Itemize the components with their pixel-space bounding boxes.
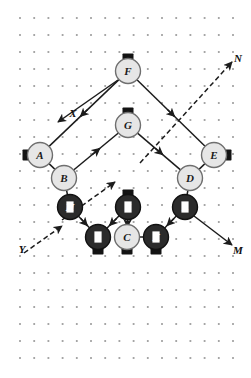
grid-dot bbox=[133, 17, 135, 19]
grid-dot bbox=[147, 119, 149, 121]
grid-dot bbox=[232, 238, 234, 240]
node-E[interactable]: E bbox=[202, 143, 232, 168]
grid-dot bbox=[232, 85, 234, 87]
grid-dot bbox=[232, 136, 234, 138]
grid-dot bbox=[33, 170, 35, 172]
grid-dot bbox=[48, 204, 50, 206]
node-D[interactable]: D bbox=[178, 166, 203, 191]
node-label-D: D bbox=[185, 172, 194, 184]
grid-dot bbox=[190, 221, 192, 223]
grid-dot bbox=[204, 17, 206, 19]
grid-dot bbox=[76, 85, 78, 87]
grid-dot bbox=[232, 289, 234, 291]
grid-dot bbox=[133, 289, 135, 291]
grid-dot bbox=[62, 289, 64, 291]
grid-dot bbox=[218, 357, 220, 359]
grid-dot bbox=[204, 204, 206, 206]
node-F[interactable]: F bbox=[116, 54, 141, 84]
grid-dot bbox=[104, 102, 106, 104]
grid-dot bbox=[119, 170, 121, 172]
node-L[interactable]: L bbox=[173, 195, 198, 220]
grid-dot bbox=[19, 51, 21, 53]
grid-dot bbox=[218, 136, 220, 138]
grid-dot bbox=[147, 323, 149, 325]
node-A[interactable]: A bbox=[23, 143, 53, 168]
node-B[interactable]: B bbox=[52, 166, 77, 191]
node-J[interactable]: J bbox=[116, 190, 141, 220]
grid-dot bbox=[119, 357, 121, 359]
grid-dot bbox=[19, 221, 21, 223]
grid-dot bbox=[19, 34, 21, 36]
grid-dot bbox=[119, 272, 121, 274]
grid-dot bbox=[76, 306, 78, 308]
grid-dot bbox=[175, 340, 177, 342]
grid-dot bbox=[147, 255, 149, 257]
grid-dot bbox=[175, 68, 177, 70]
grid-dot bbox=[204, 102, 206, 104]
grid-dot bbox=[33, 187, 35, 189]
grid-dot bbox=[76, 51, 78, 53]
grid-dot bbox=[133, 221, 135, 223]
grid-dot bbox=[33, 51, 35, 53]
grid-dot bbox=[62, 255, 64, 257]
grid-dot bbox=[119, 85, 121, 87]
grid-dot bbox=[90, 221, 92, 223]
grid-dot bbox=[48, 51, 50, 53]
grid-dot bbox=[161, 255, 163, 257]
edge-arrowhead bbox=[155, 148, 163, 155]
grid-dot bbox=[33, 340, 35, 342]
node-C[interactable]: C bbox=[115, 225, 140, 255]
grid-dot bbox=[19, 119, 21, 121]
grid-dot bbox=[147, 34, 149, 36]
grid-dot bbox=[76, 272, 78, 274]
grid-dot bbox=[133, 51, 135, 53]
grid-dot bbox=[19, 68, 21, 70]
grid-dot bbox=[218, 323, 220, 325]
grid-dot bbox=[218, 340, 220, 342]
grid-dot bbox=[76, 221, 78, 223]
grid-dot bbox=[204, 68, 206, 70]
grid-dot bbox=[204, 85, 206, 87]
grid-dot bbox=[62, 272, 64, 274]
grid-dot bbox=[190, 17, 192, 19]
node-G[interactable]: G bbox=[116, 108, 141, 138]
grid-dot bbox=[232, 153, 234, 155]
grid-dot bbox=[48, 289, 50, 291]
grid-dot bbox=[90, 289, 92, 291]
node-I[interactable]: I bbox=[86, 225, 111, 255]
grid-dot bbox=[190, 34, 192, 36]
grid-dot bbox=[48, 170, 50, 172]
grid-dot bbox=[190, 68, 192, 70]
grid-dot bbox=[218, 221, 220, 223]
grid-dot bbox=[119, 221, 121, 223]
grid-dot bbox=[204, 255, 206, 257]
grid-dot bbox=[175, 238, 177, 240]
grid-dot bbox=[104, 17, 106, 19]
grid-dot bbox=[133, 255, 135, 257]
grid-dot bbox=[76, 323, 78, 325]
grid-dot bbox=[62, 221, 64, 223]
node-K[interactable]: K bbox=[144, 225, 169, 255]
node-H[interactable]: H bbox=[58, 195, 83, 220]
grid-dot bbox=[19, 187, 21, 189]
grid-dot bbox=[232, 272, 234, 274]
grid-dot bbox=[204, 306, 206, 308]
grid-dot bbox=[218, 187, 220, 189]
grid-dot bbox=[76, 68, 78, 70]
grid-dot bbox=[161, 306, 163, 308]
grid-dot bbox=[133, 102, 135, 104]
grid-dot bbox=[33, 323, 35, 325]
grid-dot bbox=[232, 17, 234, 19]
grid-dot bbox=[90, 170, 92, 172]
grid-dot bbox=[62, 51, 64, 53]
grid-dot bbox=[232, 68, 234, 70]
grid-dot bbox=[33, 204, 35, 206]
grid-dot bbox=[90, 136, 92, 138]
grid-dot bbox=[218, 102, 220, 104]
grid-dot bbox=[218, 17, 220, 19]
grid-dot bbox=[147, 51, 149, 53]
grid-dot bbox=[90, 85, 92, 87]
grid-dot bbox=[133, 153, 135, 155]
grid-dot bbox=[104, 306, 106, 308]
grid-dot bbox=[76, 340, 78, 342]
